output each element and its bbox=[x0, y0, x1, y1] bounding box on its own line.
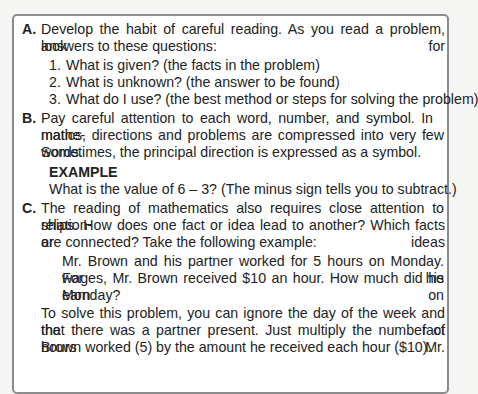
paragraph-line: answers to these questions: bbox=[41, 38, 217, 55]
paragraph-line: Brown worked (5) by the amount he receiv… bbox=[41, 339, 431, 356]
section-label: B. bbox=[22, 110, 36, 127]
paragraph-line: are connected? Take the following exampl… bbox=[41, 234, 317, 251]
list-number: 2. bbox=[49, 74, 61, 91]
section-label: A. bbox=[22, 21, 36, 38]
example-text: What is the value of 6 – 3? (The minus s… bbox=[49, 181, 457, 198]
list-number: 3. bbox=[49, 91, 61, 108]
list-item: What do I use? (the best method or steps… bbox=[66, 91, 478, 108]
list-number: 1. bbox=[49, 57, 61, 74]
list-item: What is given? (the facts in the problem… bbox=[66, 57, 320, 74]
example-heading: EXAMPLE bbox=[49, 164, 118, 181]
quote-line: Monday? bbox=[62, 287, 120, 304]
list-item: What is unknown? (the answer to be found… bbox=[66, 74, 340, 91]
paragraph-line: Sometimes, the principal direction is ex… bbox=[41, 144, 421, 161]
section-label: C. bbox=[22, 200, 36, 217]
